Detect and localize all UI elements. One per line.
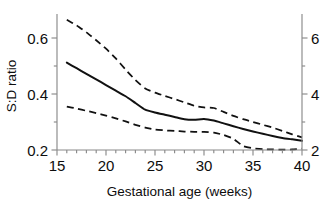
right-axis-tick-label: 4 xyxy=(311,86,319,103)
y-axis-label-left: S:D ratio xyxy=(4,60,19,113)
x-axis-label: Gestational age (weeks) xyxy=(107,184,253,199)
x-axis-tick-label: 15 xyxy=(49,157,66,174)
x-axis-tick-label: 20 xyxy=(98,157,115,174)
left-axis-tick-label: 0.2 xyxy=(27,142,48,159)
left-axis-tick-label: 0.4 xyxy=(27,86,48,103)
x-axis-tick-label: 40 xyxy=(294,157,311,174)
left-axis-tick-label: 0.6 xyxy=(27,30,48,47)
x-axis-tick-label: 25 xyxy=(147,157,164,174)
right-axis-tick-label: 6 xyxy=(311,30,319,47)
chart-background xyxy=(0,0,325,208)
chart-container: 0.20.40.6 246 152025303540 S:D ratio Ges… xyxy=(0,0,325,208)
sd-ratio-vs-gestational-age-chart: 0.20.40.6 246 152025303540 S:D ratio Ges… xyxy=(0,0,325,208)
x-axis-tick-label: 35 xyxy=(245,157,262,174)
right-axis-tick-label: 2 xyxy=(311,142,319,159)
x-axis-tick-label: 30 xyxy=(196,157,213,174)
